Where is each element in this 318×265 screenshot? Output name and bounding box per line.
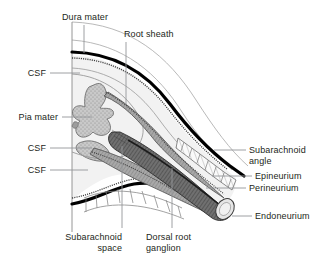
label-dorsal-root-ganglion-line1: Dorsal root [146, 232, 191, 243]
label-subarachnoid-space-line1: Subarachnoid [52, 232, 122, 243]
label-subarachnoid-angle-line2: angle [249, 156, 272, 167]
label-csf-middle: CSF [0, 143, 46, 154]
diagram-graphics [0, 0, 318, 265]
label-perineurium: Perineurium [249, 183, 299, 194]
label-csf-upper: CSF [0, 68, 46, 79]
label-subarachnoid-angle-line1: Subarachnoid [249, 145, 306, 156]
label-pia-mater: Pia mater [0, 112, 58, 123]
label-root-sheath: Root sheath [124, 29, 174, 40]
label-csf-lower: CSF [0, 165, 46, 176]
label-epineurium: Epineurium [255, 171, 302, 182]
label-dura-mater: Dura mater [62, 12, 108, 23]
label-subarachnoid-space-line2: space [52, 243, 122, 254]
label-endoneurium: Endoneurium [255, 211, 310, 222]
label-dorsal-root-ganglion-line2: ganglion [146, 243, 181, 254]
anatomical-diagram: Dura mater Root sheath CSF Pia mater CSF… [0, 0, 318, 265]
